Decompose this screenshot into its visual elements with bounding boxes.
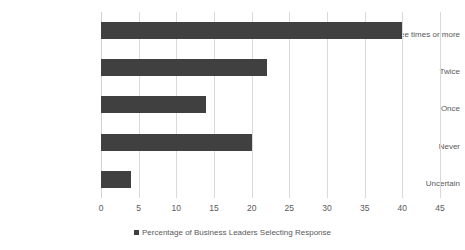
bar[interactable]: [101, 59, 267, 76]
bar-band: [101, 161, 440, 198]
bar-chart: Three times or more Twice Once Never Unc…: [0, 0, 465, 250]
x-tick-label: 30: [312, 203, 342, 213]
gridline: [440, 12, 441, 198]
x-tick-label: 40: [387, 203, 417, 213]
bar[interactable]: [101, 171, 131, 188]
x-tick-label: 10: [161, 203, 191, 213]
x-tick-label: 20: [237, 203, 267, 213]
x-axis: 051015202530354045: [101, 200, 440, 216]
bar-band: [101, 124, 440, 161]
legend-swatch-icon: [134, 230, 139, 235]
x-tick-label: 0: [86, 203, 116, 213]
x-tick-label: 25: [274, 203, 304, 213]
x-tick-label: 15: [199, 203, 229, 213]
bar[interactable]: [101, 96, 206, 113]
plot-area: [101, 12, 440, 198]
bar-band: [101, 12, 440, 49]
x-tick-label: 5: [124, 203, 154, 213]
chart-legend: Percentage of Business Leaders Selecting…: [0, 228, 465, 237]
x-tick-label: 35: [350, 203, 380, 213]
bar[interactable]: [101, 134, 252, 151]
legend-label: Percentage of Business Leaders Selecting…: [142, 228, 331, 237]
bar[interactable]: [101, 22, 402, 39]
bar-band: [101, 86, 440, 123]
x-tick-label: 45: [425, 203, 455, 213]
bar-band: [101, 49, 440, 86]
